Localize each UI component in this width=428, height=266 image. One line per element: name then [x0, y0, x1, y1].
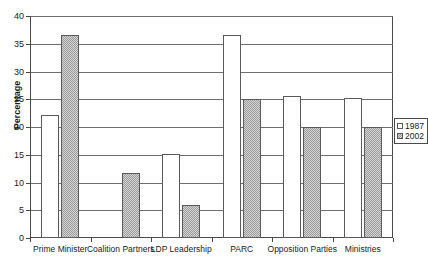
- bar-2002-0: [61, 35, 79, 238]
- legend-item-2002: 2002: [397, 131, 424, 141]
- y-axis-tick-label: 5: [19, 206, 24, 215]
- legend-label-1987: 1987: [405, 121, 424, 131]
- gridline: [31, 72, 393, 73]
- gridline: [31, 99, 393, 100]
- plot-area: 0510152025303540: [30, 16, 393, 238]
- gridline: [31, 210, 393, 211]
- legend-item-1987: 1987: [397, 121, 424, 131]
- y-axis-tick-label: 15: [14, 150, 24, 159]
- gridline: [31, 44, 393, 45]
- group-separator: [333, 238, 334, 242]
- y-axis-tick-label: 40: [14, 12, 24, 21]
- y-axis-tick-label: 25: [14, 95, 24, 104]
- legend-swatch-1987: [397, 123, 403, 129]
- group-separator: [212, 238, 213, 242]
- y-axis-tick: [26, 72, 30, 73]
- y-axis-tick: [26, 155, 30, 156]
- y-axis-tick: [26, 44, 30, 45]
- bar-2002-1: [122, 173, 140, 238]
- x-axis-label: Opposition Parties: [268, 244, 337, 254]
- legend-swatch-2002: [397, 133, 403, 139]
- x-axis-label: Prime Minister: [33, 244, 87, 254]
- gridline: [31, 155, 393, 156]
- y-axis-tick: [26, 99, 30, 100]
- bar-1987-2: [162, 154, 180, 238]
- y-axis-tick: [26, 210, 30, 211]
- bar-1987-3: [223, 35, 241, 238]
- gridline: [31, 127, 393, 128]
- legend-label-2002: 2002: [405, 131, 424, 141]
- group-separator: [30, 238, 31, 242]
- bar-1987-0: [41, 115, 59, 238]
- bar-2002-4: [303, 127, 321, 238]
- group-separator: [151, 238, 152, 242]
- x-axis-label: Coalition Partners: [87, 244, 155, 254]
- x-axis-label: Ministries: [345, 244, 381, 254]
- y-axis-tick: [26, 183, 30, 184]
- legend: 1987 2002: [394, 118, 428, 144]
- y-axis-tick-label: 0: [19, 234, 24, 243]
- group-separator: [91, 238, 92, 242]
- group-separator: [393, 238, 394, 242]
- y-axis-tick-label: 35: [14, 39, 24, 48]
- x-axis-label: LDP Leadership: [151, 244, 212, 254]
- gridline: [31, 183, 393, 184]
- y-axis-tick-label: 10: [14, 178, 24, 187]
- y-axis-tick: [26, 127, 30, 128]
- bar-2002-3: [243, 99, 261, 238]
- group-separator: [272, 238, 273, 242]
- bar-2002-5: [364, 127, 382, 238]
- bar-1987-4: [283, 96, 301, 238]
- y-axis-tick-label: 30: [14, 67, 24, 76]
- gridline: [31, 16, 393, 17]
- y-axis-tick-label: 20: [14, 123, 24, 132]
- bar-1987-5: [344, 98, 362, 238]
- x-axis-label: PARC: [230, 244, 253, 254]
- bar-2002-2: [182, 205, 200, 238]
- y-axis-tick: [26, 16, 30, 17]
